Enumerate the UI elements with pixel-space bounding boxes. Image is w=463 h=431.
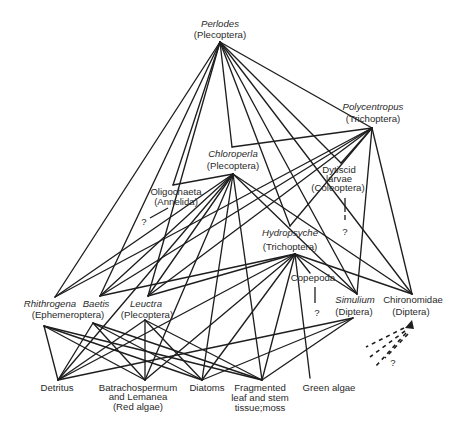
node-copepoda: Copepoda xyxy=(291,272,336,283)
chironomidae-unknown-mark: ? xyxy=(390,357,395,368)
node-fragmented-line3: tissue;moss xyxy=(235,402,286,413)
node-diatoms: Diatoms xyxy=(189,382,224,393)
node-rhithrogena: Rhithrogena xyxy=(24,298,76,309)
node-chironomidae: Chironomidae xyxy=(383,294,443,305)
node-batrachospermum-line3: (Red algae) xyxy=(113,401,163,412)
food-web-diagram: ? ? ? ? Perlodes (Plecoptera) Polycentro… xyxy=(0,0,463,431)
node-hydropsyche-group: (Trichoptera) xyxy=(263,241,318,252)
node-polycentropus: Polycentropus xyxy=(343,101,404,112)
copepoda-unknown-mark: ? xyxy=(314,307,319,318)
node-perlodes-group: (Plecoptera) xyxy=(194,29,246,40)
node-polycentropus-group: (Trichoptera) xyxy=(346,113,401,124)
node-detritus: Detritus xyxy=(40,382,73,393)
node-leuctra-group: (Plecoptera) xyxy=(121,309,173,320)
node-dytiscid-group: (Coleoptera) xyxy=(311,182,364,193)
node-simulium: Simulium xyxy=(335,294,374,305)
node-oligochaeta-group: (Annelida) xyxy=(154,196,198,207)
node-green-algae: Green algae xyxy=(303,382,356,393)
node-leuctra: Leuctra xyxy=(130,298,162,309)
node-chloroperla-group: (Plecoptera) xyxy=(207,160,259,171)
node-baetis: Baetis xyxy=(83,298,110,309)
node-hydropsyche: Hydropsyche xyxy=(262,227,318,238)
dytiscid-unknown-mark: ? xyxy=(342,226,347,237)
node-chloroperla: Chloroperla xyxy=(208,148,258,159)
oligochaeta-unknown-mark: ? xyxy=(141,216,146,227)
node-perlodes: Perlodes xyxy=(201,18,239,29)
node-chironomidae-group: (Diptera) xyxy=(392,306,429,317)
node-rhithrogena-group: (Ephemeroptera) xyxy=(32,309,105,320)
node-simulium-group: (Diptera) xyxy=(335,306,372,317)
